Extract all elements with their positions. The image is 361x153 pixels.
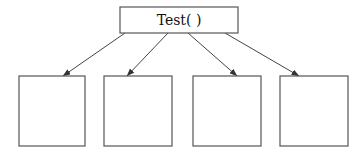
arrow-2 xyxy=(127,33,168,76)
arrow-1 xyxy=(63,33,125,76)
child-box-3 xyxy=(193,76,261,146)
child-box-2 xyxy=(104,76,172,146)
child-box-1 xyxy=(19,76,85,146)
edges-group xyxy=(63,33,299,76)
child-box-4 xyxy=(280,76,348,146)
arrow-4 xyxy=(225,33,299,76)
tree-diagram: Test( ) xyxy=(0,0,361,153)
arrow-3 xyxy=(188,33,237,76)
child-nodes xyxy=(19,76,348,146)
root-label: Test( ) xyxy=(157,12,202,28)
root-node: Test( ) xyxy=(120,7,238,33)
